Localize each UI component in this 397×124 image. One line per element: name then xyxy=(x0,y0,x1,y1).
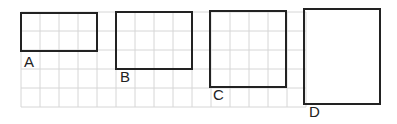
rectangle-d xyxy=(304,9,380,104)
label-b: B xyxy=(120,69,130,84)
rectangle-c xyxy=(210,11,286,87)
grid-diagram xyxy=(0,0,397,124)
label-d: D xyxy=(309,104,320,119)
label-a: A xyxy=(24,54,34,69)
label-c: C xyxy=(213,87,224,102)
